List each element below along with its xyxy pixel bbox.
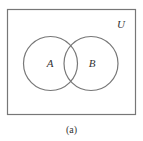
figure-caption: (a) [0,124,143,135]
set-a-label: A [46,57,54,69]
venn-diagram: A B U [0,0,143,141]
universe-label: U [117,18,126,30]
set-b-label: B [89,57,96,69]
